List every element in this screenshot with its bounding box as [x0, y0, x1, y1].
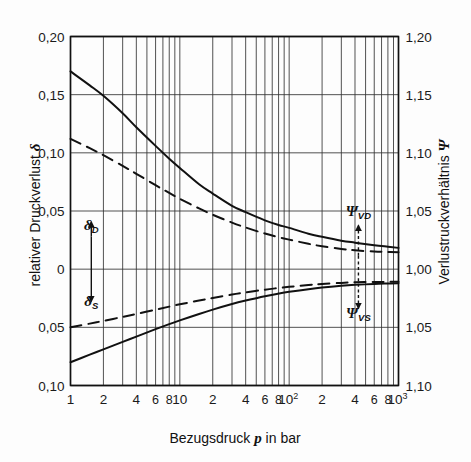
svg-text:relativer Druckverlust δ: relativer Druckverlust δ: [27, 143, 43, 286]
x-axis-title-tail: in bar: [266, 430, 301, 446]
x-tick-label: 6: [261, 393, 268, 407]
y-right-tick-label: 1,20: [406, 30, 432, 45]
x-tick-label: 6: [371, 393, 378, 407]
svg-text:Bezugsdruck p in bar: Bezugsdruck p in bar: [169, 430, 301, 446]
y-left-tick-label: 0,15: [38, 88, 64, 103]
y-right-tick-label: 1,00: [406, 262, 432, 277]
x-tick-label: 4: [133, 392, 141, 407]
y-right-title-symbol: Ψ: [436, 138, 452, 151]
y-left-tick-label: 0,05: [38, 320, 64, 335]
x-axis-title-main: Bezugsdruck: [169, 430, 251, 446]
x-tick-label: 4: [351, 392, 359, 407]
y-left-tick-label: 0,10: [38, 379, 64, 394]
y-right-tick-label: 1,05: [406, 320, 432, 335]
y-left-title-text: relativer Druckverlust: [27, 155, 43, 287]
x-axis-title-variable: p: [252, 430, 262, 446]
pressure-loss-chart: 124681024681022468103 0,200,150,100,0500…: [0, 0, 471, 462]
y-left-tick-label: 0,20: [38, 30, 64, 45]
x-tick-label: 4: [242, 392, 250, 407]
y-right-tick-label: 1,05: [406, 204, 432, 219]
x-tick-label: 10: [172, 392, 187, 407]
y-axis-right-title: Verlustruckverhältnis Ψ: [436, 138, 452, 284]
x-axis-title: Bezugsdruck p in bar: [169, 430, 301, 446]
y-right-tick-label: 1,10: [406, 379, 432, 394]
x-tick-label: 2: [209, 392, 217, 407]
x-tick-label: 2: [318, 392, 326, 407]
y-right-title-text: Verlustruckverhältnis: [436, 155, 452, 284]
chart-figure: 124681024681022468103 0,200,150,100,0500…: [0, 0, 471, 462]
svg-text:Verlustruckverhältnis Ψ: Verlustruckverhältnis Ψ: [436, 138, 452, 284]
x-tick-label: 1: [67, 392, 75, 407]
x-tick-label: 2: [100, 392, 108, 407]
y-left-tick-label: 0: [57, 262, 65, 277]
y-right-tick-label: 1,10: [406, 146, 432, 161]
y-left-title-symbol: δ: [27, 143, 43, 151]
y-axis-left-title: relativer Druckverlust δ: [27, 143, 43, 286]
x-tick-label: 6: [152, 393, 159, 407]
y-right-tick-label: 1,15: [406, 88, 432, 103]
